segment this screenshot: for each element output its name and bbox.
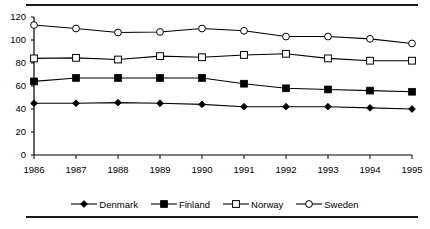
x-axis-tick-label: 1989 (140, 165, 180, 175)
legend-item-norway: Norway (223, 198, 283, 210)
x-axis-tick-label: 1991 (224, 165, 264, 175)
x-axis-tick-label: 1992 (266, 165, 306, 175)
legend-marker-filled-square-icon (151, 198, 177, 210)
data-point (157, 100, 164, 107)
data-point (409, 57, 416, 64)
legend-item-finland: Finland (151, 198, 210, 210)
x-axis-tick-label: 1987 (56, 165, 96, 175)
data-point (31, 22, 38, 29)
x-axis-tick-label: 1994 (350, 165, 390, 175)
y-axis-tick-label: 60 (0, 81, 26, 91)
data-point (325, 86, 332, 93)
data-point (115, 29, 122, 36)
series-denmark (31, 99, 416, 112)
data-point (115, 56, 122, 63)
data-point (325, 55, 332, 62)
data-point (367, 104, 374, 111)
data-point (241, 80, 248, 87)
data-point (199, 25, 206, 32)
data-point (283, 33, 290, 40)
data-point (157, 53, 164, 60)
legend-item-label: Denmark (99, 199, 138, 210)
data-point (31, 100, 38, 107)
legend-item-label: Sweden (324, 199, 358, 210)
data-point (325, 33, 332, 40)
legend-marker-open-square-icon (223, 198, 249, 210)
data-point (73, 25, 80, 32)
data-point (199, 75, 206, 82)
data-point (199, 101, 206, 108)
data-point (199, 54, 206, 61)
data-point (283, 85, 290, 92)
data-point (115, 75, 122, 82)
series-sweden (31, 22, 416, 47)
chart-figure: 020406080100120 198619871988198919901991… (0, 0, 430, 229)
data-point (241, 103, 248, 110)
x-axis-tick-label: 1988 (98, 165, 138, 175)
legend-item-label: Norway (251, 199, 283, 210)
line-chart-plot (0, 0, 430, 229)
chart-legend: DenmarkFinlandNorwaySweden (0, 196, 430, 212)
data-point (283, 50, 290, 57)
data-point (283, 103, 290, 110)
data-point (367, 35, 374, 42)
data-point (115, 99, 122, 106)
y-axis-tick-label: 100 (0, 35, 26, 45)
x-axis-tick-label: 1986 (14, 165, 54, 175)
x-axis-tick-label: 1993 (308, 165, 348, 175)
data-point (409, 40, 416, 47)
data-point (73, 100, 80, 107)
y-axis-tick-label: 80 (0, 58, 26, 68)
y-axis-tick-label: 120 (0, 12, 26, 22)
data-point (409, 106, 416, 113)
series-finland (31, 75, 416, 96)
data-point (31, 78, 38, 85)
data-point (31, 55, 38, 62)
data-point (367, 87, 374, 94)
legend-marker-filled-diamond-icon (71, 198, 97, 210)
y-axis-tick-label: 40 (0, 104, 26, 114)
data-point (241, 52, 248, 59)
data-point (241, 27, 248, 34)
data-series-group (31, 22, 416, 113)
data-point (73, 54, 80, 61)
data-point (367, 57, 374, 64)
legend-item-sweden: Sweden (296, 198, 358, 210)
data-point (73, 75, 80, 82)
x-axis-tick-label: 1990 (182, 165, 222, 175)
data-point (157, 29, 164, 36)
data-point (325, 103, 332, 110)
legend-item-label: Finland (179, 199, 210, 210)
y-axis-tick-label: 20 (0, 127, 26, 137)
legend-marker-open-circle-icon (296, 198, 322, 210)
data-point (409, 88, 416, 95)
legend-item-denmark: Denmark (71, 198, 138, 210)
series-norway (31, 50, 416, 64)
y-axis-tick-label: 0 (0, 150, 26, 160)
data-point (157, 75, 164, 82)
x-axis-tick-label: 1995 (392, 165, 430, 175)
